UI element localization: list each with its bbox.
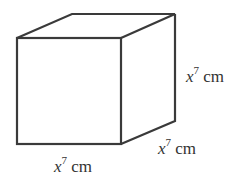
height-unit: cm bbox=[199, 67, 224, 86]
depth-unit: cm bbox=[171, 139, 196, 158]
cube-drawing bbox=[0, 0, 243, 182]
depth-exponent: 7 bbox=[166, 136, 172, 148]
width-variable: x bbox=[54, 157, 62, 176]
height-exponent: 7 bbox=[194, 64, 200, 76]
height-label: x7 cm bbox=[186, 68, 224, 85]
depth-variable: x bbox=[158, 139, 166, 158]
height-variable: x bbox=[186, 67, 194, 86]
front-face bbox=[17, 38, 121, 144]
width-exponent: 7 bbox=[62, 154, 68, 166]
depth-label: x7 cm bbox=[158, 140, 196, 157]
cube-diagram: x7 cm x7 cm x7 cm bbox=[0, 0, 243, 182]
width-unit: cm bbox=[67, 157, 92, 176]
width-label: x7 cm bbox=[54, 158, 92, 175]
top-face bbox=[17, 14, 175, 38]
